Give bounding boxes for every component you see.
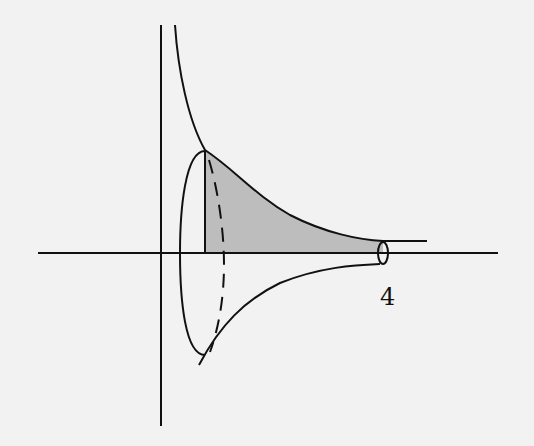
lower-curve (199, 264, 380, 365)
x-tick-label-4: 4 (380, 283, 395, 311)
solid-of-revolution-diagram: 4 (0, 0, 534, 446)
